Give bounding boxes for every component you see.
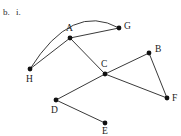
vertex-a: [68, 36, 73, 41]
edge-d-e: [56, 100, 105, 123]
vertex-label-a: A: [66, 23, 73, 33]
vertex-c: [103, 72, 108, 77]
vertex-g: [117, 26, 122, 31]
vertex-e: [103, 121, 108, 126]
vertices-layer: [28, 26, 170, 126]
vertex-label-b: B: [155, 44, 161, 54]
edge-a-g: [70, 28, 119, 38]
vertex-d: [54, 98, 59, 103]
vertex-label-f: F: [172, 93, 177, 103]
vertex-labels-layer: ABCDEFGH: [26, 21, 177, 136]
vertex-label-h: H: [26, 74, 33, 84]
vertex-label-e: E: [102, 126, 108, 136]
figure-canvas: b. i. ABCDEFGH: [0, 0, 181, 136]
edge-b-f: [149, 53, 167, 98]
edge-c-b: [105, 53, 149, 74]
vertex-label-g: G: [124, 21, 131, 31]
vertex-label-d: D: [51, 105, 58, 115]
edge-c-f: [105, 74, 167, 98]
edge-a-c: [70, 38, 105, 74]
vertex-f: [165, 96, 170, 101]
vertex-h: [28, 67, 33, 72]
vertex-label-c: C: [101, 59, 107, 69]
graph-diagram: ABCDEFGH: [0, 0, 181, 136]
vertex-b: [147, 51, 152, 56]
edge-c-d: [56, 74, 105, 100]
